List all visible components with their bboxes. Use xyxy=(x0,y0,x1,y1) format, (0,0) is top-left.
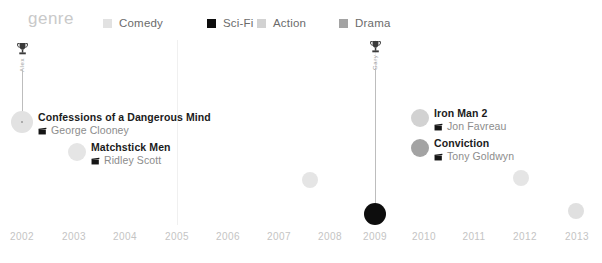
x-axis: 2002200320042005200620072008200920102011… xyxy=(0,225,602,263)
point-title: Matchstick Men xyxy=(91,141,171,153)
point-director-row: Ridley Scott xyxy=(91,154,171,166)
clapperboard-icon xyxy=(91,156,100,165)
clapperboard-icon xyxy=(434,152,443,161)
legend-swatch-action xyxy=(257,19,266,28)
legend-label-action: Action xyxy=(273,17,306,29)
axis-tick-2006: 2006 xyxy=(216,231,240,242)
point-label: Iron Man 2Jon Favreau xyxy=(434,107,506,132)
marker-stem xyxy=(375,68,376,214)
point-circle[interactable] xyxy=(364,203,386,225)
legend-item-sci-fi[interactable]: Sci-Fi xyxy=(207,16,254,30)
legend-swatch-drama xyxy=(339,19,348,28)
point-core xyxy=(21,121,23,123)
legend-title: genre xyxy=(28,9,74,29)
trophy-icon xyxy=(369,40,382,55)
point-label: Confessions of a Dangerous MindGeorge Cl… xyxy=(38,111,211,136)
axis-tick-2003: 2003 xyxy=(62,231,86,242)
legend-swatch-comedy xyxy=(103,19,112,28)
axis-tick-2012: 2012 xyxy=(513,231,537,242)
legend-item-action[interactable]: Action xyxy=(257,16,306,30)
point-director: Ridley Scott xyxy=(104,154,161,166)
point-director-row: Tony Goldwyn xyxy=(434,150,514,162)
point-title: Conviction xyxy=(434,137,514,149)
axis-tick-2004: 2004 xyxy=(113,231,137,242)
legend-item-drama[interactable]: Drama xyxy=(339,16,391,30)
trophy-icon xyxy=(369,40,382,55)
point-director-row: Jon Favreau xyxy=(434,120,506,132)
legend-item-comedy[interactable]: Comedy xyxy=(103,16,163,30)
legend-label-drama: Drama xyxy=(355,17,391,29)
point-director: George Clooney xyxy=(51,124,129,136)
legend-label-comedy: Comedy xyxy=(119,17,163,29)
axis-tick-2007: 2007 xyxy=(267,231,291,242)
axis-tick-2008: 2008 xyxy=(318,231,342,242)
point-label: ConvictionTony Goldwyn xyxy=(434,137,514,162)
legend: genre Comedy Sci-Fi Action Drama xyxy=(0,0,602,40)
trophy-icon xyxy=(16,42,29,57)
point-circle[interactable] xyxy=(411,139,429,157)
point-circle[interactable] xyxy=(568,203,584,219)
axis-tick-2010: 2010 xyxy=(412,231,436,242)
trophy-icon xyxy=(16,42,29,57)
point-title: Iron Man 2 xyxy=(434,107,506,119)
axis-tick-2005: 2005 xyxy=(165,231,189,242)
clapperboard-icon xyxy=(434,122,443,131)
point-label: Matchstick MenRidley Scott xyxy=(91,141,171,166)
point-director: Jon Favreau xyxy=(447,120,506,132)
axis-tick-2002: 2002 xyxy=(10,231,34,242)
point-director: Tony Goldwyn xyxy=(447,150,514,162)
point-circle[interactable] xyxy=(411,109,429,127)
point-circle[interactable] xyxy=(302,172,318,188)
point-circle[interactable] xyxy=(513,170,529,186)
axis-tick-2009: 2009 xyxy=(363,231,387,242)
axis-tick-2011: 2011 xyxy=(462,231,485,242)
point-title: Confessions of a Dangerous Mind xyxy=(38,111,211,123)
axis-tick-2013: 2013 xyxy=(565,231,589,242)
point-director-row: George Clooney xyxy=(38,124,211,136)
legend-label-sci-fi: Sci-Fi xyxy=(223,17,254,29)
point-circle[interactable] xyxy=(68,143,86,161)
legend-swatch-sci-fi xyxy=(207,19,216,28)
clapperboard-icon xyxy=(38,126,47,135)
plot-area: AlexGary Confessions of a Dangerous Mind… xyxy=(0,40,602,225)
